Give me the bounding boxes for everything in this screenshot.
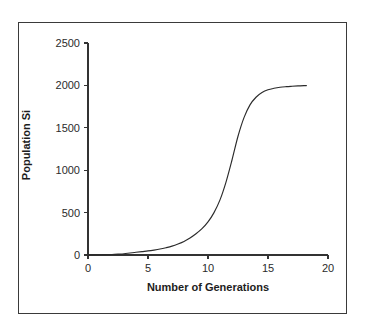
y-tick-label: 500: [62, 207, 80, 218]
x-tick-label: 15: [262, 263, 274, 274]
x-tick-marks: [88, 255, 328, 259]
y-tick-label: 2000: [56, 80, 80, 91]
y-tick-label: 1500: [56, 122, 80, 133]
y-tick-label: 1000: [56, 165, 80, 176]
y-tick-marks: [84, 43, 88, 255]
x-tick-label: 10: [202, 263, 214, 274]
y-tick-label: 0: [74, 250, 80, 261]
x-tick-label: 0: [85, 263, 91, 274]
x-axis-title: Number of Generations: [147, 281, 269, 293]
population-growth-curve: [88, 86, 306, 255]
axes-group: [88, 43, 328, 255]
x-tick-label: 20: [322, 263, 334, 274]
x-tick-label: 5: [145, 263, 151, 274]
y-tick-label: 2500: [56, 38, 80, 49]
figure-root: 05001000150020002500 05101520 Population…: [0, 0, 365, 332]
y-axis-title: Population Si: [20, 110, 32, 180]
